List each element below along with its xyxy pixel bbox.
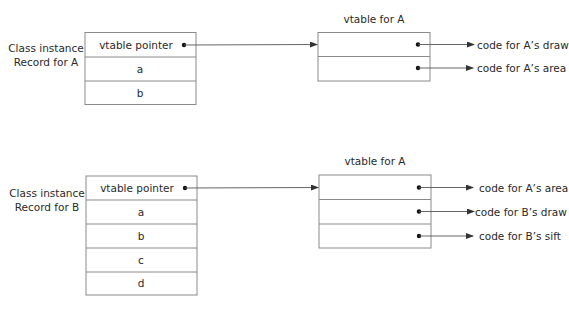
field-b: b bbox=[138, 230, 145, 242]
instance-label-line-1: Class instance bbox=[9, 186, 84, 200]
field-vtable-pointer: vtable pointer bbox=[100, 182, 174, 194]
instance-label-b: Class instance Record for B bbox=[9, 186, 84, 214]
vtable-title-b: vtable for A bbox=[344, 154, 405, 168]
vtable-pointer-arrow-a bbox=[182, 43, 317, 47]
vtable-a bbox=[318, 33, 430, 82]
vtable-title-a: vtable for A bbox=[343, 12, 404, 26]
field-a: a bbox=[137, 63, 143, 75]
field-a: a bbox=[138, 206, 144, 218]
field-vtable-pointer: vtable pointer bbox=[99, 39, 173, 51]
vtable-pointer-arrow-b bbox=[183, 186, 318, 190]
vtable-entry-label: code for A’s area bbox=[479, 182, 568, 194]
vtable-entry-label: code for B’s sift bbox=[479, 230, 561, 242]
vtable-entry-label: code for B’s draw bbox=[475, 206, 567, 218]
instance-label-line-2: Record for A bbox=[8, 55, 83, 69]
field-b: b bbox=[137, 87, 144, 99]
instance-label-line-1: Class instance bbox=[8, 41, 83, 55]
field-d: d bbox=[138, 277, 145, 289]
instance-label-line-2: Record for B bbox=[9, 200, 84, 214]
vtable-entry-label: code for A’s draw bbox=[477, 39, 569, 51]
vtable-b bbox=[319, 175, 431, 248]
field-c: c bbox=[138, 254, 144, 266]
vtable-entry-label: code for A’s area bbox=[477, 62, 566, 74]
instance-label-a: Class instance Record for A bbox=[8, 41, 83, 69]
